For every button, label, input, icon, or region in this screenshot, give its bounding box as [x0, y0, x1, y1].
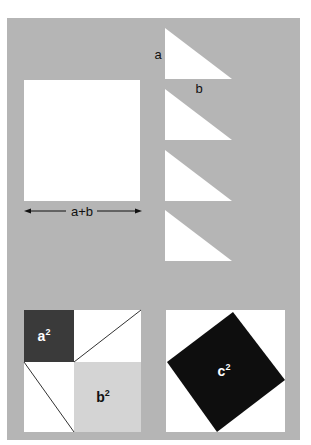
c-squared-base: c	[218, 363, 226, 379]
arrow-left-icon	[24, 209, 31, 214]
a-squared-base: a	[38, 328, 46, 344]
arrangement-left: a2 b2	[24, 310, 141, 432]
triangle-3	[165, 150, 232, 201]
big-square-dimension-label: a+b	[71, 204, 93, 219]
triangle-side-b-label: b	[195, 81, 202, 96]
a-squared-exponent: 2	[45, 327, 50, 337]
triangle-1	[165, 28, 232, 79]
triangle-side-a-label: a	[154, 47, 162, 62]
b-squared-exponent: 2	[105, 388, 110, 398]
pythagoras-diagram: a+b a b a2 b2 c2	[0, 0, 311, 445]
big-square	[24, 80, 140, 201]
triangle-4	[165, 210, 232, 261]
c-squared-exponent: 2	[225, 362, 230, 372]
triangle-2	[165, 89, 232, 140]
arrangement-right: c2	[166, 310, 285, 432]
b-squared-base: b	[96, 389, 105, 405]
arrow-right-icon	[135, 209, 142, 214]
